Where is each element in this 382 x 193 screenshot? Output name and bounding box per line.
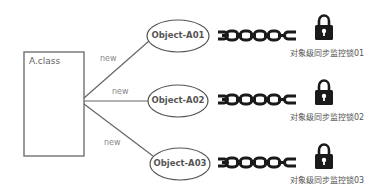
lock-icon (315, 145, 333, 170)
class-label: A.class (29, 56, 60, 66)
object-a03-label: Object-A03 (149, 158, 211, 168)
object-a01-label: Object-A01 (147, 30, 209, 40)
edge-label-new-1: new (100, 54, 117, 63)
object-a02-label: Object-A02 (147, 95, 209, 105)
chain-icon (218, 31, 296, 40)
chain-icon (218, 95, 296, 104)
class-box (24, 52, 84, 156)
edge-to-object-a03 (84, 104, 153, 156)
edge-label-new-3: new (104, 138, 121, 147)
lock-caption-03: 对象级同步监控锁03 (290, 174, 364, 185)
chain-icon (218, 158, 296, 167)
lock-icon (315, 81, 333, 106)
lock-caption-02: 对象级同步监控锁02 (290, 111, 364, 122)
lock-caption-01: 对象级同步监控锁01 (290, 47, 364, 58)
lock-icon (315, 16, 333, 41)
diagram-canvas: A.class new new new Object-A01 Object-A0… (0, 0, 382, 193)
edge-label-new-2: new (112, 87, 129, 96)
